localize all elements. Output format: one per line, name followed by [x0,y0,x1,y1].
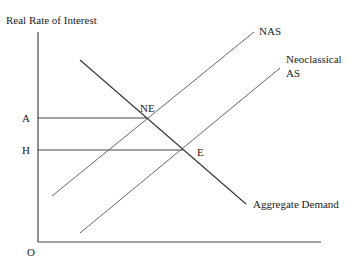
aggregate-demand-curve [80,60,246,204]
nas-label: NAS [259,25,281,37]
diagram-canvas: Real Rate of Interest A H O NAS Neoclass… [0,0,358,269]
neoclassical-as-label-2: AS [286,67,300,79]
aggregate-demand-label: Aggregate Demand [253,198,339,210]
tick-label-h: H [22,144,30,156]
tick-label-a: A [22,112,30,124]
point-ne-label: NE [140,102,155,114]
neoclassical-as-label-1: Neoclassical [286,53,342,65]
point-e-label: E [197,146,204,158]
origin-label: O [27,246,35,258]
y-axis-label: Real Rate of Interest [6,14,97,26]
